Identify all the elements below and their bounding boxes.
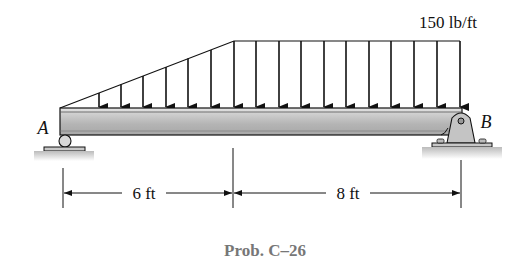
bolt-icon — [437, 139, 444, 143]
ground-hatch — [34, 151, 94, 161]
load-arrows-uniform — [234, 41, 460, 107]
roller-icon — [59, 135, 71, 147]
pin-icon — [458, 118, 464, 124]
figure-caption: Prob. C–26 — [224, 241, 306, 260]
load-intensity-label: 150 lb/ft — [419, 13, 477, 32]
bolt-icon — [479, 139, 486, 143]
beam — [60, 108, 462, 135]
support-a-label: A — [37, 118, 50, 138]
beam-diagram: 150 lb/ft A B 6 ft 8 ft Prob. C–26 — [0, 0, 530, 273]
dimensions — [63, 148, 461, 208]
support-b-label: B — [481, 112, 492, 132]
dimension-label-6ft: 6 ft — [132, 184, 155, 203]
ground-hatch — [422, 147, 502, 159]
dimension-label-8ft: 8 ft — [336, 184, 359, 203]
distributed-load: 150 lb/ft — [60, 13, 477, 108]
load-outline — [60, 41, 460, 108]
load-arrows-triangular — [99, 50, 211, 107]
